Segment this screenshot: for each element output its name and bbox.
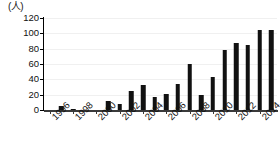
bar-slot [149, 18, 161, 110]
bar-slot [230, 18, 242, 110]
bar-slot [79, 18, 91, 110]
bar-slot [172, 18, 184, 110]
bar-slot [161, 18, 173, 110]
x-axis-ticks: 1996199820002002200420062008201020122014 [44, 111, 277, 145]
bar-slot [184, 18, 196, 110]
bar-chart: (人) 020406080100120 19961998200020022004… [0, 0, 280, 145]
bar [164, 94, 169, 110]
bar [211, 77, 216, 110]
bar [187, 64, 192, 110]
bar-slot [102, 18, 114, 110]
bar-slot [195, 18, 207, 110]
bar-slot [67, 18, 79, 110]
bar [257, 30, 262, 111]
bar-slot [44, 18, 56, 110]
y-tick-label: 40 [28, 74, 39, 84]
plot-area: 020406080100120 [44, 18, 277, 110]
bar-slot [219, 18, 231, 110]
y-tick-label: 80 [28, 44, 39, 54]
bar [269, 30, 274, 111]
bar [234, 43, 239, 110]
bar-slot [126, 18, 138, 110]
bar-slot [137, 18, 149, 110]
y-tick-label: 0 [34, 105, 39, 115]
y-tick-label: 120 [23, 13, 39, 23]
bar-slot [91, 18, 103, 110]
bar-slot [56, 18, 68, 110]
bar-slot [265, 18, 277, 110]
bar-series [44, 18, 277, 110]
y-tick-label: 20 [28, 90, 39, 100]
bar-slot [114, 18, 126, 110]
bar-slot [254, 18, 266, 110]
y-tick-label: 60 [28, 59, 39, 69]
bar-slot [242, 18, 254, 110]
y-axis-unit-label: (人) [8, 1, 23, 13]
bar-slot [207, 18, 219, 110]
y-tick-label: 100 [23, 28, 39, 38]
